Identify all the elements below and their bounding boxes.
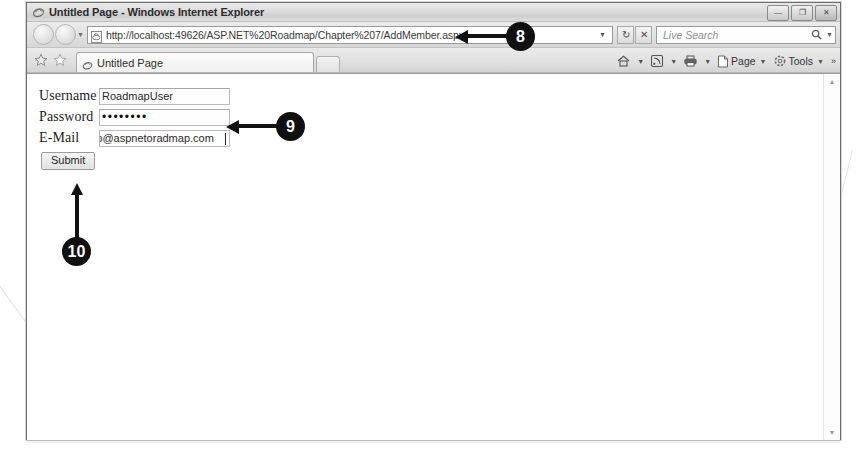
window-controls: — ❐ ✕ xyxy=(767,5,837,21)
callout-8: 8 xyxy=(507,23,534,50)
feeds-button[interactable] xyxy=(649,54,667,68)
forward-button[interactable] xyxy=(55,24,76,45)
page-menu-button[interactable]: Page xyxy=(716,55,757,68)
new-tab-button[interactable] xyxy=(316,56,340,72)
restore-icon: ❐ xyxy=(799,9,806,17)
refresh-button[interactable]: ↻ xyxy=(617,26,634,44)
address-bar[interactable]: http://localhost:49626/ASP.NET%20Roadmap… xyxy=(87,26,613,44)
home-caret-icon[interactable]: ▼ xyxy=(635,58,648,65)
page-icon xyxy=(91,29,102,41)
back-button[interactable] xyxy=(33,24,54,45)
email-input[interactable]: roadmap@aspnetoradmap.com xyxy=(99,130,230,147)
minimize-button[interactable]: — xyxy=(767,5,789,21)
browser-window: Untitled Page - Windows Internet Explore… xyxy=(26,2,841,440)
callout-9-arrowhead xyxy=(226,120,239,134)
email-input-value: roadmap@aspnetoradmap.com xyxy=(99,132,214,144)
address-toolbar: ▼ http://localhost:49626/ASP.NET%20Roadm… xyxy=(27,22,840,48)
vertical-scrollbar[interactable]: ▲ ▼ xyxy=(823,74,840,440)
title-bar: Untitled Page - Windows Internet Explore… xyxy=(27,3,840,22)
add-favorite-icon[interactable] xyxy=(33,52,49,68)
status-bar xyxy=(27,440,840,443)
password-input[interactable]: •••••••• xyxy=(99,109,230,126)
content-area: Username RoadmapUser Password •••••••• E… xyxy=(27,73,840,440)
tools-menu-caret-icon[interactable]: ▼ xyxy=(815,58,828,65)
submit-button[interactable]: Submit xyxy=(41,152,95,170)
username-label: Username xyxy=(39,88,99,104)
web-page-canvas: Username RoadmapUser Password •••••••• E… xyxy=(27,74,824,440)
tab-toolbar: Untitled Page ▼ xyxy=(27,48,840,73)
tab-strip: Untitled Page xyxy=(76,52,615,72)
callout-10-shaft xyxy=(75,194,79,241)
close-icon: ✕ xyxy=(823,9,830,17)
tab-untitled-page[interactable]: Untitled Page xyxy=(76,52,314,72)
tab-label: Untitled Page xyxy=(97,57,163,69)
search-dropdown-caret-icon[interactable]: ▼ xyxy=(823,31,833,38)
home-icon xyxy=(616,54,631,68)
add-member-form: Username RoadmapUser Password •••••••• E… xyxy=(39,87,230,170)
print-icon xyxy=(683,54,698,68)
username-row: Username RoadmapUser xyxy=(39,87,230,105)
stop-icon: ✕ xyxy=(640,30,648,40)
command-bar: ▼ ▼ xyxy=(615,54,836,68)
search-placeholder: Live Search xyxy=(663,29,810,41)
stop-button[interactable]: ✕ xyxy=(635,26,652,44)
print-button[interactable] xyxy=(682,54,701,68)
print-caret-icon[interactable]: ▼ xyxy=(702,58,715,65)
close-button[interactable]: ✕ xyxy=(815,5,837,21)
command-bar-overflow-icon[interactable]: » xyxy=(829,56,836,66)
password-label: Password xyxy=(39,109,99,125)
tools-menu-button[interactable]: Tools xyxy=(772,54,815,68)
username-input[interactable]: RoadmapUser xyxy=(99,88,230,105)
page-menu-label: Page xyxy=(731,55,756,67)
callout-10: 10 xyxy=(63,238,90,265)
favorites-center-icon[interactable] xyxy=(52,52,68,68)
scroll-up-button[interactable]: ▲ xyxy=(824,74,840,89)
search-input[interactable]: Live Search ▼ xyxy=(656,26,836,44)
ie-logo-icon xyxy=(82,57,93,68)
email-label: E-Mail xyxy=(39,130,99,146)
feeds-caret-icon[interactable]: ▼ xyxy=(668,58,681,65)
page-icon xyxy=(717,55,729,68)
scroll-down-button[interactable]: ▼ xyxy=(824,425,840,440)
ie-logo-icon xyxy=(32,6,45,19)
email-row: E-Mail roadmap@aspnetoradmap.com xyxy=(39,129,230,147)
address-dropdown-caret-icon[interactable]: ▼ xyxy=(597,31,610,38)
callout-8-arrowhead xyxy=(455,30,468,44)
window-title: Untitled Page - Windows Internet Explore… xyxy=(49,6,264,18)
callout-9: 9 xyxy=(277,113,304,140)
page-menu-caret-icon[interactable]: ▼ xyxy=(758,58,771,65)
search-icon[interactable] xyxy=(810,29,823,40)
text-cursor xyxy=(225,133,226,145)
minimize-icon: — xyxy=(774,9,782,17)
refresh-icon: ↻ xyxy=(622,30,630,40)
gear-icon xyxy=(773,54,787,68)
password-row: Password •••••••• xyxy=(39,108,230,126)
feeds-icon xyxy=(650,54,664,68)
restore-button[interactable]: ❐ xyxy=(791,5,813,21)
tools-menu-label: Tools xyxy=(789,55,814,67)
recent-pages-caret-icon[interactable]: ▼ xyxy=(76,31,85,38)
home-button[interactable] xyxy=(615,54,634,68)
scan-artifact-right xyxy=(838,150,862,270)
